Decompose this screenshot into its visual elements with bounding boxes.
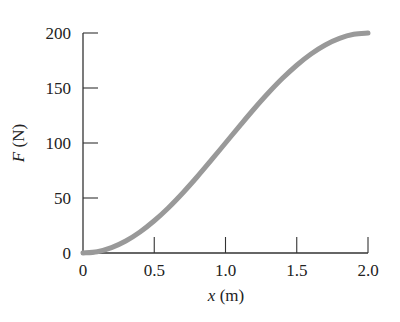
- y-tick-label: 200: [46, 24, 72, 43]
- y-tick-label: 100: [46, 134, 72, 153]
- x-axis-label: x (m): [207, 286, 244, 305]
- force-curve: [83, 33, 368, 253]
- y-tick-label: 0: [63, 244, 72, 263]
- x-tick-label: 0: [79, 261, 88, 280]
- x-tick-label: 0.5: [144, 261, 165, 280]
- y-tick-label: 50: [54, 189, 71, 208]
- ticks: 05010015020000.51.01.52.0: [46, 24, 379, 280]
- y-tick-label: 150: [46, 79, 72, 98]
- x-tick-label: 2.0: [357, 261, 378, 280]
- x-tick-label: 1.5: [286, 261, 307, 280]
- y-axis-label: F (N): [9, 124, 28, 163]
- force-vs-position-chart: 05010015020000.51.01.52.0 x (m) F (N): [0, 0, 400, 322]
- x-tick-label: 1.0: [215, 261, 236, 280]
